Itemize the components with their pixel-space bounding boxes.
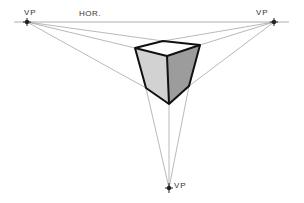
vp-right-label: VP — [256, 9, 269, 17]
horizon-label: HOR. — [79, 10, 101, 18]
cube — [135, 41, 200, 104]
cube-left-face — [135, 48, 169, 104]
vanishing-point-bottom-icon — [165, 183, 173, 193]
vp-bottom-label: VP — [174, 182, 187, 190]
vp-left-label: VP — [24, 9, 37, 17]
vanishing-point-right-icon — [270, 18, 278, 26]
perspective-diagram — [0, 0, 304, 203]
vanishing-point-left-icon — [23, 18, 31, 26]
